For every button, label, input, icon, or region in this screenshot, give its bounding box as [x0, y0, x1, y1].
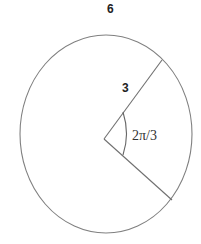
diagram-canvas — [0, 0, 201, 244]
lower-radius-line — [104, 139, 172, 200]
top-label: 6 — [107, 2, 114, 16]
angle-label: 2π/3 — [132, 128, 157, 144]
angle-arc — [123, 112, 127, 155]
circle-outline — [20, 35, 192, 233]
radius-label: 3 — [122, 81, 129, 95]
